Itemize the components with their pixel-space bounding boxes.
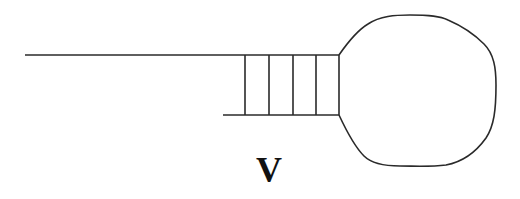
loop [339,15,496,166]
diagram-label: V [256,152,282,188]
stem-rungs [245,55,339,115]
